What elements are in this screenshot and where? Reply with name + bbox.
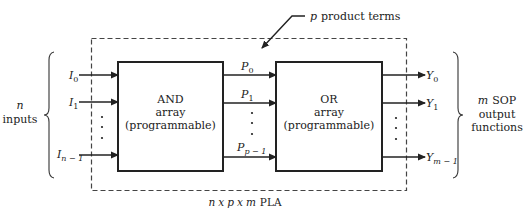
product-ellipsis-dots xyxy=(251,112,253,135)
or-array-label-3: (programmable) xyxy=(284,119,375,132)
and-array-label-3: (programmable) xyxy=(125,119,216,132)
output-label-m-1: Ym − 1 xyxy=(426,151,458,166)
or-array-block: OR array (programmable) xyxy=(276,62,382,171)
and-array-block: AND array (programmable) xyxy=(118,62,223,171)
right-brace-line3: functions xyxy=(471,121,523,134)
output-ellipsis-dots xyxy=(395,117,397,140)
product-label-1: P1 xyxy=(240,88,254,103)
output-label-0: Y0 xyxy=(426,69,438,84)
product-label-p-1: Pp − 1 xyxy=(236,141,266,156)
output-lines xyxy=(382,75,425,157)
output-labels: Y0 Y1 Ym − 1 xyxy=(426,69,458,166)
input-label-n-1: In − 1 xyxy=(56,148,83,163)
input-lines xyxy=(79,75,118,155)
input-label-0: I0 xyxy=(68,69,78,84)
product-terms-callout: pproduct terms xyxy=(262,10,401,48)
and-array-label-2: array xyxy=(156,106,187,119)
input-labels: I0 I1 In − 1 xyxy=(56,69,83,163)
and-array-label-1: AND xyxy=(156,93,184,106)
product-term-lines xyxy=(223,75,276,157)
output-label-1: Y1 xyxy=(426,97,438,112)
right-brace-line1: mSOP xyxy=(478,94,517,107)
left-brace-text: inputs xyxy=(3,113,38,126)
or-array-label-2: array xyxy=(314,106,345,119)
product-label-0: P0 xyxy=(240,60,254,75)
product-terms-label: pproduct terms xyxy=(310,10,401,23)
callout-arrow-icon xyxy=(262,16,305,48)
input-label-1: I1 xyxy=(68,96,78,111)
or-array-label-1: OR xyxy=(320,93,338,106)
pla-diagram: AND array (programmable) OR array (progr… xyxy=(0,0,526,212)
pla-title: nxpxmPLA xyxy=(209,196,282,208)
left-brace-icon xyxy=(44,52,54,178)
input-ellipsis-dots xyxy=(101,116,103,139)
left-brace-var: n xyxy=(16,99,23,112)
right-brace-line2: output xyxy=(479,108,516,121)
